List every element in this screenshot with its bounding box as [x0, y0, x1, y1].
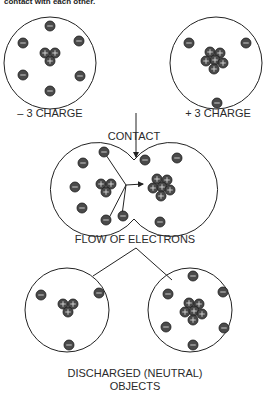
electron-icon: [74, 36, 84, 46]
electron-icon: [140, 155, 150, 165]
flow-label: FLOW OF ELECTRONS: [75, 233, 195, 245]
electron-icon: [94, 288, 104, 298]
contact-label: CONTACT: [108, 130, 161, 142]
negative-object: [4, 17, 96, 109]
electron-icon: [78, 158, 88, 168]
electron-icon: [219, 323, 229, 333]
proton-icon: [165, 185, 175, 195]
electron-icon: [161, 322, 171, 332]
caption-fragment: contact with each other.: [4, 0, 95, 6]
flow-line: [104, 152, 126, 185]
electron-icon: [64, 340, 74, 350]
electron-icon: [188, 271, 198, 281]
electron-icon: [18, 70, 28, 80]
proton-icon: [201, 56, 211, 66]
proton-icon: [45, 56, 55, 66]
proton-icon: [209, 64, 219, 74]
negative-charge-label: – 3 CHARGE: [17, 107, 82, 119]
electron-icon: [75, 71, 85, 81]
electron-icon: [163, 289, 173, 299]
electron-icon: [36, 290, 46, 300]
electron-icon: [155, 217, 165, 227]
charge-diagram: contact with each other. – 3 CHARGE + 3 …: [0, 0, 270, 395]
electron-icon: [70, 182, 80, 192]
electron-icon: [45, 86, 55, 96]
electron-icon: [99, 147, 109, 157]
proton-icon: [63, 307, 73, 317]
electron-icon: [184, 38, 194, 48]
proton-icon: [156, 191, 166, 201]
neutral-left-object: [25, 268, 109, 352]
positive-object: [170, 17, 262, 109]
discharged-label-line1: DISCHARGED (NEUTRAL): [67, 367, 202, 379]
discharged-label-line2: OBJECTS: [110, 380, 161, 392]
proton-icon: [218, 58, 228, 68]
electron-icon: [77, 203, 87, 213]
electron-icon: [172, 153, 182, 163]
proton-icon: [188, 315, 198, 325]
split-lines: [93, 248, 172, 280]
electron-icon: [18, 38, 28, 48]
electron-icon: [218, 287, 228, 297]
proton-icon: [148, 183, 158, 193]
contact-objects: [50, 142, 217, 236]
electron-icon: [101, 215, 111, 225]
neutral-right-object: [148, 268, 232, 352]
electron-icon: [118, 211, 128, 221]
flow-arrow: [126, 184, 143, 185]
positive-charge-label: + 3 CHARGE: [185, 107, 251, 119]
proton-icon: [101, 187, 111, 197]
proton-icon: [197, 309, 207, 319]
electron-icon: [188, 340, 198, 350]
proton-icon: [180, 307, 190, 317]
electron-icon: [45, 21, 55, 31]
electron-icon: [241, 38, 251, 48]
